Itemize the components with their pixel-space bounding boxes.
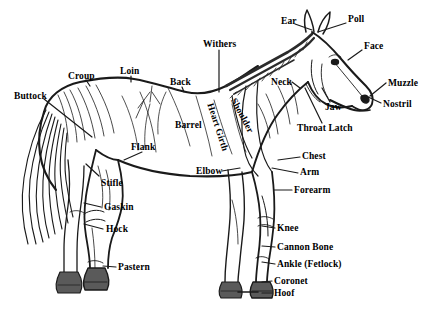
- leader-neck: [292, 82, 300, 88]
- leader-pastern: [103, 266, 116, 267]
- label-nostril: Nostril: [383, 100, 412, 110]
- label-back: Back: [170, 78, 191, 88]
- foreleg-near: [250, 172, 274, 298]
- hindleg-near: [84, 150, 123, 290]
- flank-outline: [96, 150, 118, 160]
- eye: [331, 59, 339, 65]
- leader-arm: [272, 168, 298, 173]
- label-ear: Ear: [281, 17, 297, 27]
- label-ankle-fetlock: Ankle (Fetlock): [277, 260, 342, 270]
- label-hoof: Hoof: [274, 289, 294, 299]
- hindleg-off: [56, 160, 84, 293]
- label-cannon-bone: Cannon Bone: [277, 243, 333, 253]
- leader-gaskin: [84, 203, 101, 207]
- label-jaw: Jaw: [325, 103, 342, 113]
- label-buttock: Buttock: [14, 92, 47, 102]
- label-hock: Hock: [106, 225, 128, 235]
- leader-poll: [318, 23, 346, 32]
- label-muzzle: Muzzle: [388, 79, 418, 89]
- label-poll: Poll: [348, 15, 364, 25]
- label-gaskin: Gaskin: [104, 203, 134, 213]
- label-flank: Flank: [131, 143, 155, 153]
- leader-elbow: [222, 168, 240, 171]
- label-pastern: Pastern: [118, 263, 150, 273]
- label-withers: Withers: [203, 40, 236, 50]
- label-stifle: Stifle: [101, 179, 123, 189]
- label-knee: Knee: [277, 224, 299, 234]
- label-face: Face: [364, 42, 383, 52]
- neck-shading: [258, 80, 298, 138]
- label-loin: Loin: [120, 67, 139, 77]
- leader-ear: [295, 24, 312, 30]
- label-croup: Croup: [68, 72, 95, 82]
- leader-muzzle: [370, 83, 386, 96]
- label-throat-latch: Throat Latch: [297, 124, 353, 134]
- leader-jaw: [322, 88, 330, 102]
- leader-hock: [84, 224, 103, 229]
- leader-flank: [124, 152, 142, 160]
- label-forearm: Forearm: [294, 186, 330, 196]
- foreleg-off: [219, 170, 244, 298]
- label-chest: Chest: [302, 152, 326, 162]
- label-elbow: Elbow: [196, 167, 222, 177]
- horse-anatomy-diagram: ButtockCroupLoinBackWithersBarrelFlankSt…: [0, 0, 434, 313]
- label-arm: Arm: [300, 168, 319, 178]
- leader-chest: [278, 157, 300, 160]
- label-barrel: Barrel: [175, 121, 202, 131]
- leader-cannon-bone: [262, 246, 275, 247]
- label-coronet: Coronet: [274, 277, 308, 287]
- belly-outline: [118, 160, 252, 176]
- label-neck: Neck: [271, 78, 292, 88]
- leader-face: [348, 50, 362, 60]
